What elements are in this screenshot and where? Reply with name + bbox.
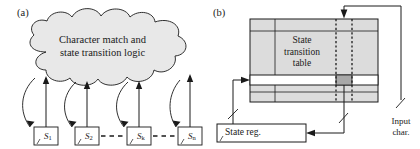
table-label: State transition table bbox=[272, 35, 332, 70]
table-label-line3: table bbox=[272, 58, 332, 70]
panel-a-graphics bbox=[0, 0, 210, 149]
selected-cell bbox=[336, 75, 352, 85]
cloud-label: Character match and state transition log… bbox=[40, 33, 165, 59]
box-ticks bbox=[37, 139, 184, 144]
state-label-3: Sk bbox=[137, 131, 145, 141]
cloud-to-state-curve-3 bbox=[117, 82, 128, 127]
figure-container: (a) bbox=[0, 0, 420, 149]
input-char-label-line2: char. bbox=[377, 127, 420, 138]
selected-row-band bbox=[250, 75, 378, 85]
state-label-4: Sn bbox=[188, 131, 196, 141]
cloud-to-state-curve-2 bbox=[65, 82, 76, 127]
cloud-to-state-curve-4 bbox=[170, 80, 180, 127]
table-to-state-reg-arrowhead bbox=[306, 130, 315, 136]
state-subscript: n bbox=[193, 134, 196, 141]
cloud-to-state-curve-1 bbox=[23, 78, 35, 127]
cloud-label-line2: state transition logic bbox=[40, 46, 165, 59]
state-subscript: 1 bbox=[49, 134, 52, 141]
panel-b: (b) bbox=[205, 0, 420, 149]
state-subscript: k bbox=[142, 134, 145, 141]
panel-a: (a) bbox=[0, 0, 210, 149]
cloud-to-state-arrowheads bbox=[27, 121, 181, 128]
table-label-line1: State bbox=[272, 35, 332, 47]
state-register-label: State reg. bbox=[225, 127, 261, 137]
state-reg-to-table-arrowhead bbox=[241, 77, 250, 83]
state-subscript: 2 bbox=[90, 134, 93, 141]
state-label-1: S1 bbox=[44, 131, 52, 141]
table-label-line2: transition bbox=[272, 47, 332, 59]
input-char-arrowhead bbox=[341, 10, 348, 19]
input-char-label-line1: Input bbox=[377, 116, 420, 127]
state-reg-to-table-wire bbox=[233, 80, 244, 124]
cloud-label-line1: Character match and bbox=[40, 33, 165, 46]
state-label-2: S2 bbox=[85, 131, 93, 141]
input-char-label: Input char. bbox=[377, 116, 420, 138]
